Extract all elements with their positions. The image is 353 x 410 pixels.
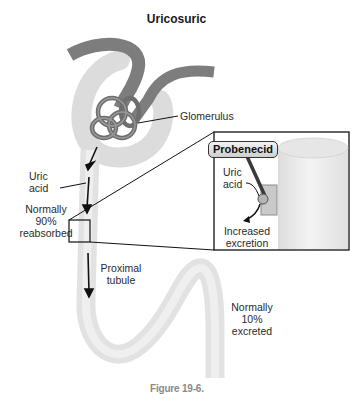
glomerulus-label: Glomerulus xyxy=(180,110,234,122)
uric-acid-label: Uric acid xyxy=(29,170,48,194)
uric-acid-label-line1: Uric xyxy=(29,170,48,182)
excreted-label: Normally 10% excreted xyxy=(228,301,276,337)
increased-excretion-line1: Increased xyxy=(218,225,276,237)
increased-excretion-line2: excretion xyxy=(218,237,276,249)
zoom-line-bottom xyxy=(90,242,214,250)
excreted-line2: 10% xyxy=(228,313,276,325)
proximal-line2: tubule xyxy=(98,274,144,286)
proximal-line1: Proximal xyxy=(98,262,144,274)
reabsorbed-line1: Normally xyxy=(16,203,76,215)
uric-acid-label-line2: acid xyxy=(29,182,48,194)
reabsorbed-line2: 90% xyxy=(16,215,76,227)
increased-excretion-label: Increased excretion xyxy=(218,225,276,249)
inset-uric-acid-label: Uric acid xyxy=(223,166,242,190)
reabsorbed-label: Normally 90% reabsorbed xyxy=(16,203,76,239)
tubule-cell-cylinder xyxy=(278,138,348,249)
inset-uric-acid-line2: acid xyxy=(223,178,242,190)
inset-uric-acid-line1: Uric xyxy=(223,166,242,178)
diagram-title: Uricosuric xyxy=(0,12,353,26)
uric-acid-molecule xyxy=(258,194,268,204)
excreted-line1: Normally xyxy=(228,301,276,313)
proximal-tubule-label: Proximal tubule xyxy=(98,262,144,286)
figure-caption: Figure 19-6. xyxy=(150,383,204,394)
excreted-line3: excreted xyxy=(228,325,276,337)
probenecid-badge: Probenecid xyxy=(208,141,278,158)
reabsorbed-line3: reabsorbed xyxy=(16,227,76,239)
